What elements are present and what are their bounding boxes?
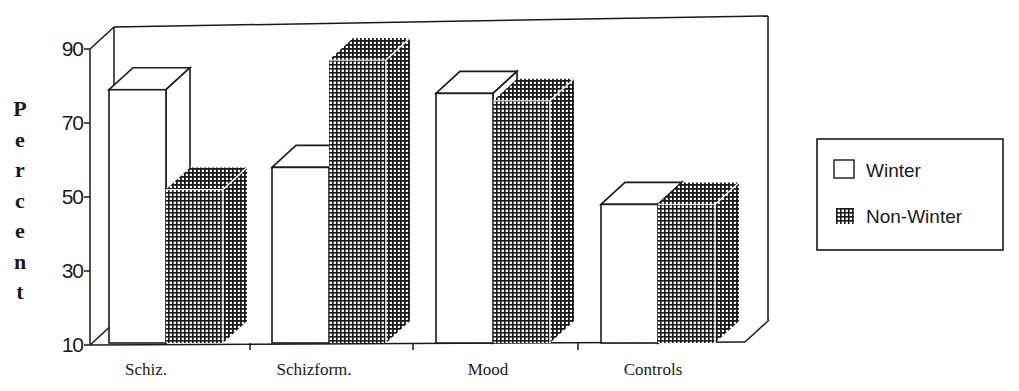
bar-series [109,38,739,343]
bar-group [436,71,574,343]
y-axis-ticks: 1030507090 [62,37,90,356]
bar-non-winter [329,38,410,343]
legend: Winter Non-Winter [817,139,1003,250]
y-axis-label-letter: e [15,127,25,152]
y-tick-label: 90 [62,37,84,60]
y-axis-label-letter: r [15,157,25,182]
y-axis-label-letter: t [16,279,24,304]
y-axis-label-letter: c [15,188,25,213]
legend-swatch-non-winter [836,208,854,224]
legend-box [817,139,1003,250]
legend-label-non-winter: Non-Winter [866,206,963,227]
x-category-label: Schiz. [125,360,167,379]
y-tick-label: 10 [62,333,84,356]
x-axis-labels: Schiz.Schizform.MoodControls [125,343,682,379]
y-tick-label: 30 [62,259,84,282]
y-tick-label: 70 [62,111,84,134]
bar-group [272,38,410,343]
y-axis-label-letter: P [13,96,26,121]
bar-non-winter [658,182,739,343]
y-axis-label: Percent [13,96,26,304]
x-category-label: Controls [624,360,683,379]
bar-non-winter [166,168,247,343]
legend-swatch-winter [834,160,854,178]
bar-non-winter [493,79,574,343]
legend-label-winter: Winter [866,160,922,181]
bar-group [601,182,739,343]
y-tick-label: 50 [62,185,84,208]
chart: Percent 1030507090 Schiz.Schizform.MoodC… [0,0,1019,391]
x-category-label: Mood [468,360,509,379]
y-axis-label-letter: n [14,249,26,274]
bar-group [109,68,247,343]
y-axis-label-letter: e [15,218,25,243]
x-category-label: Schizform. [276,360,351,379]
